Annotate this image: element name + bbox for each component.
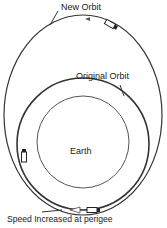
- spacecraft-perigee-icon: [87, 208, 100, 213]
- new-orbit-leader: [50, 11, 58, 25]
- spacecraft-left-icon: [22, 149, 27, 162]
- thrust-flame-icon: [70, 207, 80, 213]
- orbit-diagram-graphic: [0, 0, 167, 228]
- perigee-label: Speed Increased at perigee: [7, 214, 113, 224]
- orbit-diagram: New Orbit Original Orbit Earth Speed Inc…: [0, 0, 167, 228]
- perigee-leader: [42, 210, 62, 212]
- arrow-apogee-icon: [85, 17, 90, 21]
- original-orbit-label: Original Orbit: [76, 71, 129, 81]
- earth-circle: [37, 96, 129, 188]
- new-orbit-label: New Orbit: [61, 2, 101, 12]
- earth-label: Earth: [70, 146, 92, 156]
- new-orbit-path: [4, 15, 162, 215]
